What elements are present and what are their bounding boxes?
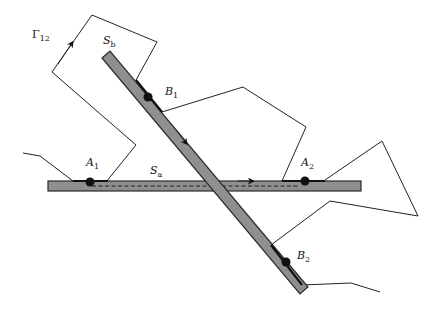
point-a1 <box>86 178 95 187</box>
label-sa: Sa <box>150 164 163 179</box>
diagram-canvas: Γ12 Sb B1 A1 Sa A2 B2 <box>0 0 437 312</box>
point-b2 <box>282 258 291 267</box>
label-b1: B1 <box>164 85 178 100</box>
bar-s-b <box>102 51 308 294</box>
label-gamma12: Γ12 <box>32 28 50 43</box>
point-a2 <box>301 177 310 186</box>
bar-s-a <box>48 181 361 191</box>
point-b1 <box>144 93 153 102</box>
label-b2: B2 <box>296 249 310 264</box>
label-a2: A2 <box>300 156 314 171</box>
gamma-path <box>23 15 418 292</box>
label-a1: A1 <box>85 156 99 171</box>
label-sb: Sb <box>103 34 116 49</box>
